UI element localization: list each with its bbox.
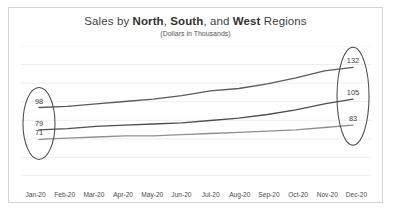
gridlines bbox=[21, 46, 371, 176]
data-label: 105 bbox=[347, 88, 359, 97]
x-axis-tick: Apr-20 bbox=[109, 191, 138, 198]
x-axis-labels: Jan-20Feb-20Mar-20Apr-20May-20Jun-20Jul-… bbox=[21, 191, 371, 198]
data-label: 71 bbox=[35, 128, 43, 137]
title-separator-2: , and bbox=[203, 15, 232, 27]
x-axis-tick: Jun-20 bbox=[167, 191, 196, 198]
chart-subtitle: (Dollars in Thousands) bbox=[9, 30, 382, 37]
chart-title: Sales by North, South, and West Regions bbox=[9, 15, 382, 27]
series-line-south bbox=[39, 99, 353, 130]
x-axis-tick: Sep-20 bbox=[254, 191, 283, 198]
plot-area: 98797113210583 bbox=[21, 46, 371, 176]
x-axis-tick: Feb-20 bbox=[50, 191, 79, 198]
data-label: 83 bbox=[349, 114, 357, 123]
data-label: 98 bbox=[35, 97, 43, 106]
x-axis-tick: Jan-20 bbox=[21, 191, 50, 198]
data-label: 79 bbox=[35, 119, 43, 128]
chart-title-block: Sales by North, South, and West Regions … bbox=[9, 15, 382, 37]
chart-container: Sales by North, South, and West Regions … bbox=[8, 7, 383, 203]
title-region-west: West bbox=[233, 15, 261, 27]
line-chart-svg: 98797113210583 bbox=[21, 46, 371, 176]
x-axis-tick: Aug-20 bbox=[225, 191, 254, 198]
title-region-south: South bbox=[170, 15, 203, 27]
x-axis-tick: Nov-20 bbox=[313, 191, 342, 198]
title-tail: Regions bbox=[260, 15, 306, 27]
title-region-north: North bbox=[133, 15, 164, 27]
title-lead: Sales by bbox=[84, 15, 132, 27]
series-lines bbox=[39, 67, 353, 139]
data-label: 132 bbox=[347, 56, 359, 65]
x-axis-tick: Oct-20 bbox=[284, 191, 313, 198]
callout-annotations: 98797113210583 bbox=[23, 47, 369, 159]
x-axis-tick: Jul-20 bbox=[196, 191, 225, 198]
x-axis-tick: May-20 bbox=[138, 191, 167, 198]
x-axis-tick: Mar-20 bbox=[79, 191, 108, 198]
x-axis-tick: Dec-20 bbox=[342, 191, 371, 198]
